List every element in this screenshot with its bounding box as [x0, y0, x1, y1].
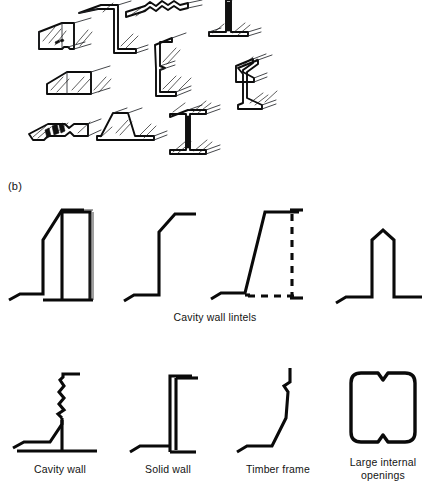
- profile-timber-frame: [237, 368, 290, 452]
- caption-cavity-wall-lintels: Cavity wall lintels: [174, 311, 257, 324]
- caption-solid-wall: Solid wall: [145, 463, 191, 476]
- caption-large-internal-openings-line2: openings: [338, 469, 427, 482]
- profile-cavity-wall: [13, 374, 97, 451]
- caption-cavity-wall: Cavity wall: [34, 463, 86, 476]
- panel-b-profiles: [0, 0, 427, 498]
- profile-lintel-raking-web-dashed-outline: [211, 210, 303, 299]
- profile-lintel-sloped-web-with-box: [9, 210, 93, 300]
- profile-solid-wall: [130, 376, 198, 452]
- profile-lintel-peaked-top: [336, 230, 422, 303]
- profile-large-internal-openings: [351, 373, 415, 442]
- caption-timber-frame: Timber frame: [246, 463, 310, 476]
- panel-b-label: (b): [8, 180, 22, 192]
- caption-large-internal-openings: Large internal openings: [338, 456, 427, 481]
- profile-lintel-plain-angled-toe: [124, 214, 196, 301]
- caption-large-internal-openings-line1: Large internal: [338, 456, 427, 469]
- figure-root: (b) Cavity wall lintels Cavity wall Soli…: [0, 0, 427, 498]
